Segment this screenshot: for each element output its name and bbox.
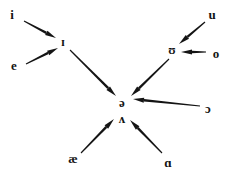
arrow-small-cap-u-to-schwa xyxy=(131,59,169,96)
arrow-e-to-small-cap-i xyxy=(26,48,58,64)
arrow-ash-to-wedge xyxy=(81,119,114,153)
arrow-open-o-to-schwa xyxy=(133,98,200,107)
vowel-symbol-e: e xyxy=(11,59,17,72)
arrow-shaft xyxy=(138,59,169,90)
arrow-shaft xyxy=(70,50,109,89)
vowel-symbol-i: i xyxy=(10,8,14,21)
arrow-script-a-to-wedge xyxy=(130,120,162,153)
arrow-shaft xyxy=(144,99,200,107)
arrow-head xyxy=(133,98,144,103)
vowel-symbol-schwa: ə xyxy=(119,96,125,109)
arrow-u-to-small-cap-u xyxy=(179,22,205,44)
arrow-o-to-small-cap-u xyxy=(181,50,206,55)
arrow-shaft xyxy=(192,51,206,54)
arrow-shaft xyxy=(187,22,206,38)
arrow-layer xyxy=(0,0,234,176)
arrow-head xyxy=(181,50,192,55)
vowel-symbol-small-cap-u: ʊ xyxy=(168,44,175,56)
arrow-shaft xyxy=(26,52,49,65)
arrow-head xyxy=(47,48,58,55)
arrow-shaft xyxy=(137,127,163,153)
vowel-symbol-small-cap-i: ɪ xyxy=(61,36,64,48)
vowel-symbol-u: u xyxy=(208,8,215,21)
vowel-symbol-o: o xyxy=(213,47,220,60)
vowel-symbol-open-o: ɔ xyxy=(205,102,211,115)
vowel-reduction-diagram: iɪeuʊoəʌɔæɑ xyxy=(0,0,234,176)
arrow-small-cap-i-to-schwa xyxy=(70,50,116,96)
arrow-shaft xyxy=(24,21,47,34)
vowel-symbol-script-a: ɑ xyxy=(164,156,171,169)
vowel-symbol-wedge: ʌ xyxy=(119,112,126,125)
vowel-symbol-ash: æ xyxy=(68,152,77,165)
arrow-i-to-small-cap-i xyxy=(24,21,56,38)
arrow-shaft xyxy=(81,126,108,153)
